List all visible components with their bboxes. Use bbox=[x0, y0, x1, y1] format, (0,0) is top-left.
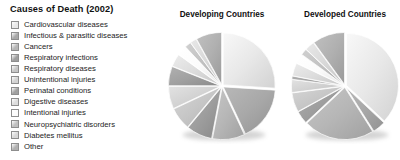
pie-canvas-developing bbox=[164, 30, 280, 146]
legend-item[interactable]: Digestive diseases bbox=[11, 97, 151, 108]
legend-swatch-icon bbox=[11, 43, 19, 51]
legend-item-label: Perinatal conditions bbox=[24, 87, 91, 95]
legend-item-label: Neuropsychiatric disorders bbox=[24, 121, 115, 129]
pie-svg-developed bbox=[287, 30, 400, 146]
legend-item[interactable]: Respiratory infections bbox=[11, 52, 151, 63]
pie-chart-developed-countries: Developed Countries bbox=[270, 10, 400, 155]
legend-item-label: Diabetes mellitus bbox=[24, 132, 83, 140]
legend-item[interactable]: Diabetes mellitus bbox=[11, 130, 151, 141]
legend-item[interactable]: Cardiovascular diseases bbox=[11, 19, 151, 30]
legend: Cardiovascular diseasesInfectious & para… bbox=[11, 19, 151, 152]
legend-item-label: Digestive diseases bbox=[24, 98, 88, 106]
legend-item-label: Infectious & parasitic diseases bbox=[24, 32, 127, 40]
legend-item[interactable]: Cancers bbox=[11, 41, 151, 52]
legend-item[interactable]: Infectious & parasitic diseases bbox=[11, 30, 151, 41]
legend-swatch-icon bbox=[11, 143, 19, 151]
legend-item-label: Respiratory infections bbox=[24, 54, 98, 62]
legend-item-label: Respiratory diseases bbox=[24, 65, 96, 73]
legend-item[interactable]: Intentional injuries bbox=[11, 108, 151, 119]
legend-item[interactable]: Other bbox=[11, 141, 151, 152]
page-title: Causes of Death (2002) bbox=[10, 4, 113, 14]
pie-canvas-developed bbox=[287, 30, 400, 146]
legend-swatch-icon bbox=[11, 21, 19, 29]
legend-item-label: Unintentional injuries bbox=[24, 76, 95, 84]
legend-swatch-icon bbox=[11, 109, 19, 117]
legend-item-label: Cancers bbox=[24, 43, 53, 51]
pie-svg-developing bbox=[164, 30, 280, 146]
legend-swatch-icon bbox=[11, 32, 19, 40]
legend-swatch-icon bbox=[11, 131, 19, 139]
legend-item[interactable]: Respiratory diseases bbox=[11, 63, 151, 74]
legend-item-label: Other bbox=[24, 143, 43, 151]
legend-swatch-icon bbox=[11, 98, 19, 106]
legend-swatch-icon bbox=[11, 54, 19, 62]
pie-slice[interactable] bbox=[223, 33, 275, 88]
legend-item-label: Intentional injuries bbox=[24, 109, 86, 117]
legend-item[interactable]: Neuropsychiatric disorders bbox=[11, 119, 151, 130]
legend-swatch-icon bbox=[11, 120, 19, 128]
legend-item-label: Cardiovascular diseases bbox=[24, 21, 108, 29]
chart-heading-developed: Developed Countries bbox=[270, 10, 400, 19]
legend-item[interactable]: Unintentional injuries bbox=[11, 74, 151, 85]
legend-swatch-icon bbox=[11, 76, 19, 84]
legend-item[interactable]: Perinatal conditions bbox=[11, 86, 151, 97]
legend-swatch-icon bbox=[11, 87, 19, 95]
legend-swatch-icon bbox=[11, 65, 19, 73]
